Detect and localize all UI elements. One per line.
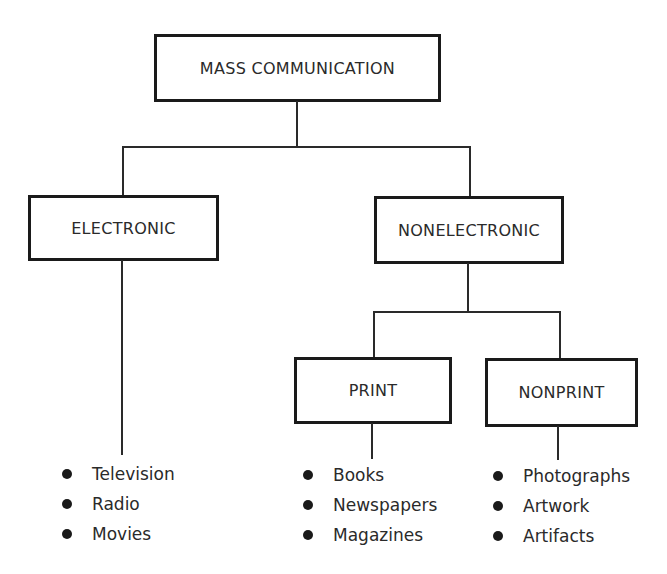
bullet-icon: [493, 531, 503, 541]
bullet-icon: [62, 529, 72, 539]
nonprint-box: NONPRINT: [485, 358, 638, 427]
connector-line: [121, 260, 123, 455]
nonelectronic-box: NONELECTRONIC: [374, 196, 564, 264]
list-item: Artifacts: [493, 521, 630, 551]
mass-communication-label: MASS COMMUNICATION: [200, 59, 395, 78]
connector-line: [122, 146, 470, 148]
list-item: Radio: [62, 489, 175, 519]
print-label: PRINT: [349, 381, 398, 400]
connector-line: [371, 423, 373, 459]
bullet-icon: [303, 500, 313, 510]
list-item: Books: [303, 460, 437, 490]
list-item: Artwork: [493, 491, 630, 521]
bullet-icon: [493, 471, 503, 481]
list-item: Television: [62, 459, 175, 489]
list-item: Photographs: [493, 461, 630, 491]
list-item-label: Magazines: [333, 525, 423, 545]
connector-line: [469, 146, 471, 197]
list-item: Newspapers: [303, 490, 437, 520]
list-item-label: Television: [92, 464, 175, 484]
electronic-label: ELECTRONIC: [71, 219, 176, 238]
print-box: PRINT: [294, 357, 452, 424]
nonelectronic-label: NONELECTRONIC: [398, 221, 540, 240]
nonprint-items-list: Photographs Artwork Artifacts: [493, 461, 630, 551]
connector-line: [122, 146, 124, 196]
connector-line: [467, 263, 469, 312]
list-item: Magazines: [303, 520, 437, 550]
connector-line: [559, 311, 561, 359]
mass-communication-box: MASS COMMUNICATION: [154, 34, 441, 102]
connector-line: [557, 426, 559, 460]
list-item-label: Books: [333, 465, 384, 485]
connector-line: [373, 311, 560, 313]
list-item-label: Movies: [92, 524, 151, 544]
list-item-label: Photographs: [523, 466, 630, 486]
list-item-label: Artifacts: [523, 526, 594, 546]
bullet-icon: [303, 530, 313, 540]
electronic-box: ELECTRONIC: [28, 195, 219, 261]
nonprint-label: NONPRINT: [518, 383, 604, 402]
list-item-label: Radio: [92, 494, 140, 514]
bullet-icon: [62, 499, 72, 509]
list-item: Movies: [62, 519, 175, 549]
bullet-icon: [62, 469, 72, 479]
print-items-list: Books Newspapers Magazines: [303, 460, 437, 550]
connector-line: [373, 311, 375, 358]
bullet-icon: [303, 470, 313, 480]
bullet-icon: [493, 501, 503, 511]
electronic-items-list: Television Radio Movies: [62, 459, 175, 549]
list-item-label: Artwork: [523, 496, 589, 516]
connector-line: [296, 101, 298, 147]
list-item-label: Newspapers: [333, 495, 437, 515]
